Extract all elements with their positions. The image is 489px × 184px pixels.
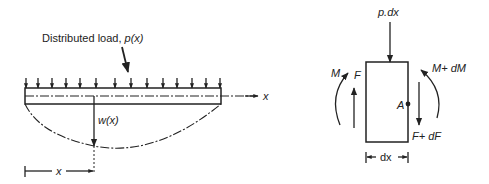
right-moment-arrow [421, 70, 439, 118]
point-a-marker [406, 102, 411, 107]
element-diagram: p.dx M F M+ dM F+ dF A dx [331, 6, 467, 163]
left-moment-label: M [331, 67, 341, 79]
deflection-curve [25, 104, 221, 148]
beam-deflection-figure: Distributed load, p(x) x w(x) [0, 0, 489, 184]
point-a-label: A [396, 99, 404, 111]
right-moment-label: M+ dM [432, 62, 467, 74]
top-load-label: p.dx [377, 6, 399, 18]
beam-diagram: Distributed load, p(x) x w(x) [25, 32, 269, 177]
distributed-load-arrows [26, 78, 220, 88]
left-shear-label: F [354, 69, 362, 81]
dx-label: dx [380, 151, 392, 163]
x-axis-label: x [262, 90, 269, 102]
load-pointer-arrow [122, 47, 128, 72]
deflection-label: w(x) [98, 114, 119, 126]
position-x-label: x [55, 165, 62, 177]
right-shear-label: F+ dF [412, 130, 442, 142]
distributed-load-label: Distributed load, p(x) [42, 32, 144, 44]
left-moment-arrow [336, 73, 349, 125]
